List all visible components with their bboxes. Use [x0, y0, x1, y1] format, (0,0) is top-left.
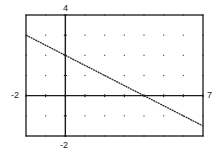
- grid-dot: [84, 55, 85, 56]
- grid-dot: [143, 75, 144, 76]
- plot-frame: [26, 15, 203, 136]
- y-min-label: -2: [60, 140, 68, 150]
- grid-dot: [104, 55, 105, 56]
- grid-dot: [124, 115, 125, 116]
- grid-dot: [104, 35, 105, 36]
- grid-dot: [163, 35, 164, 36]
- grid-dot: [84, 35, 85, 36]
- grid-dot: [45, 55, 46, 56]
- grid-dot: [163, 75, 164, 76]
- grid-dot: [183, 35, 184, 36]
- grid-dot: [104, 115, 105, 116]
- grid-dot: [45, 75, 46, 76]
- grid-dot: [143, 35, 144, 36]
- grid-dot: [143, 115, 144, 116]
- grid-dot: [163, 55, 164, 56]
- grid-dot: [143, 55, 144, 56]
- grid-dot: [124, 35, 125, 36]
- grid-dot: [183, 75, 184, 76]
- graph-line: [26, 35, 203, 126]
- grid-dot: [84, 115, 85, 116]
- grid-dot: [84, 75, 85, 76]
- x-max-label: 7: [207, 90, 212, 100]
- grid-dot: [45, 115, 46, 116]
- grid-dot: [124, 75, 125, 76]
- grid-dot: [163, 115, 164, 116]
- grid-dot: [45, 35, 46, 36]
- graph-canvas: [0, 0, 218, 158]
- y-max-label: 4: [63, 3, 68, 13]
- grid-dot: [124, 55, 125, 56]
- grid-dot: [183, 55, 184, 56]
- x-min-label: -2: [11, 90, 19, 100]
